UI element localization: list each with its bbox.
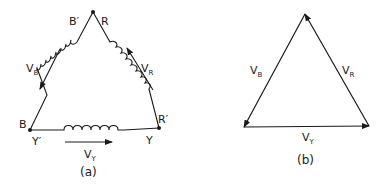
bottom-winding (30, 126, 159, 131)
voltage-label-vy-b: VY (302, 131, 315, 146)
voltage-label-vy-a: VY (84, 148, 97, 163)
caption-a: (a) (80, 165, 97, 179)
node-label-r-prime: R′ (158, 113, 169, 126)
terminal-right (157, 126, 161, 130)
node-label-b-prime: B′ (69, 15, 80, 28)
voltage-label-vb-a: VB (26, 62, 39, 77)
left-winding (30, 12, 93, 130)
vr-phasor (305, 14, 369, 126)
vy-phasor (244, 126, 369, 127)
voltage-label-vr-a: VR (141, 62, 154, 77)
node-label-r: R (101, 15, 109, 28)
voltage-label-vb-b: VB (250, 64, 263, 79)
terminal-top (91, 10, 95, 14)
vb-arrow-a (40, 49, 60, 89)
caption-b: (b) (297, 153, 314, 167)
node-label-y: Y (145, 134, 153, 147)
terminal-left (28, 128, 32, 132)
voltage-label-vr-b: VR (342, 64, 355, 79)
node-label-b: B (19, 118, 27, 131)
delta-connection-diagram: B′ R B Y′ R′ Y VB VR VY (a) VB VR VY (b) (0, 0, 391, 187)
node-label-y-prime: Y′ (31, 135, 42, 148)
